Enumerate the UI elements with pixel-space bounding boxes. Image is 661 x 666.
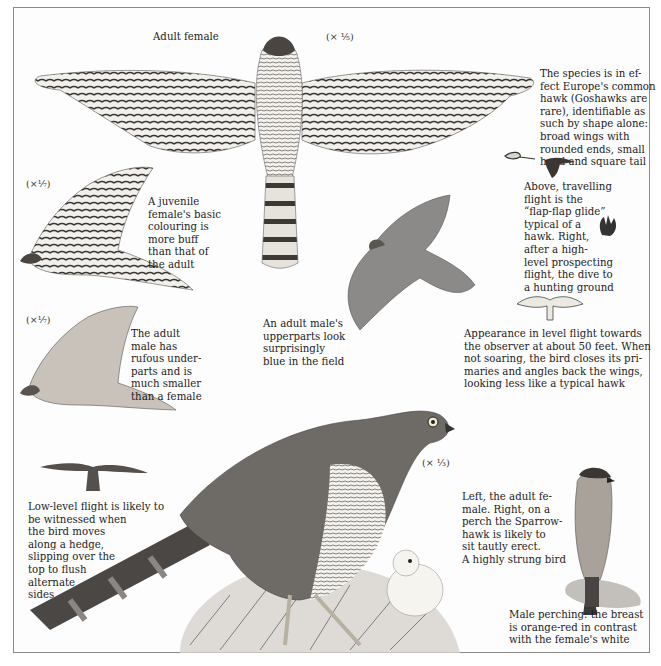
flight-patterns-caption: Above, travelling flight is the “flap-fl…	[524, 181, 614, 294]
male-perching-caption: Male perching: the breast is orange-red …	[509, 609, 643, 647]
scale-adult-female: (× ⅕)	[326, 31, 354, 42]
scale-perched-female: (× ⅓)	[422, 457, 450, 468]
level-flight-caption: Appearance in level flight towards the o…	[464, 328, 651, 391]
head-on-flight-illustration	[515, 292, 585, 324]
juvenile-caption: A juvenile female's basic colouring is m…	[148, 196, 221, 272]
male-upperparts-caption: An adult male's upperparts look surprisi…	[263, 318, 345, 368]
perched-female-illustration	[30, 395, 460, 653]
flap-glide-silhouettes	[500, 150, 610, 185]
scale-adult-male: (×⅐)	[26, 314, 51, 325]
adult-male-upperside-illustration	[340, 190, 480, 330]
adult-male-caption: The adult male has rufous under- parts a…	[131, 328, 202, 404]
scale-juvenile: (×⅐)	[26, 178, 51, 189]
perching-caption: Left, the adult fe- male. Right, on a pe…	[462, 491, 566, 567]
male-perching-illustration	[555, 465, 645, 615]
adult-female-label: Adult female	[153, 31, 219, 44]
